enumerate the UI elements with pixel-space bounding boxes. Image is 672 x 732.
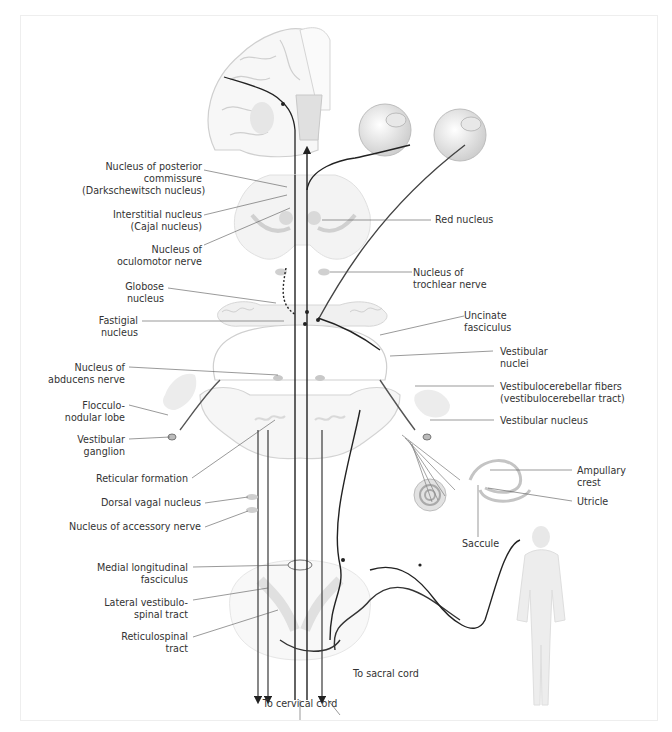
label-accessory-nucleus: Nucleus of accessory nerve [40,521,201,533]
label-uncinate-fasciculus: Uncinate fasciculus [464,310,511,334]
figure-caption-truncated [30,722,650,732]
flocculonodular-lobe-right [414,390,450,418]
label-medial-longitudinal-fasciculus: Medial longitudinal fasciculus [60,562,188,586]
label-interstitial-nucleus: Interstitial nucleus (Cajal nucleus) [82,209,202,233]
label-posterior-commissure-nucleus: Nucleus of posterior commissure (Darksch… [82,161,202,197]
label-globose-nucleus: Globose nucleus [100,281,164,305]
brain-coronal-section [208,28,330,175]
trochlear-nucleus-right [318,269,330,276]
label-to-sacral-cord: To sacral cord [353,668,419,680]
label-lateral-vestibulospinal-tract: Lateral vestibulo- spinal tract [60,597,188,621]
label-saccule: Saccule [462,538,499,550]
label-flocculonodular-lobe: Flocculo- nodular lobe [40,400,125,424]
label-vestibular-nucleus: Vestibular nucleus [500,415,588,427]
label-reticular-formation: Reticular formation [60,473,188,485]
label-utricle: Utricle [577,496,608,508]
label-red-nucleus: Red nucleus [435,214,493,226]
label-ampullary-crest: Ampullary crest [577,465,626,489]
label-fastigial-nucleus: Fastigial nucleus [80,315,138,339]
inner-ear-labyrinth [402,435,530,511]
brainstem-pons [200,325,400,459]
label-vestibular-nuclei: Vestibular nuclei [500,346,548,370]
flocculonodular-lobe-left [163,374,196,410]
spinal-cord-section [230,560,371,660]
label-abducens-nucleus: Nucleus of abducens nerve [40,362,125,386]
label-to-cervical-cord: To cervical cord [250,698,350,710]
eyeball-left [359,104,411,156]
label-vestibular-ganglion: Vestibular ganglion [40,434,125,458]
label-dorsal-vagal-nucleus: Dorsal vagal nucleus [60,497,201,509]
midbrain-section [234,175,370,259]
label-vestibulocerebellar-fibers: Vestibulocerebellar fibers (vestibulocer… [500,381,625,405]
label-oculomotor-nucleus: Nucleus of oculomotor nerve [82,244,202,268]
label-trochlear-nucleus: Nucleus of trochlear nerve [413,267,487,291]
human-body-figure [517,526,565,705]
accessory-nucleus-shape [246,507,258,513]
eyeball-right [434,109,486,161]
label-reticulospinal-tract: Reticulospinal tract [60,631,188,655]
cerebellum [218,302,387,327]
